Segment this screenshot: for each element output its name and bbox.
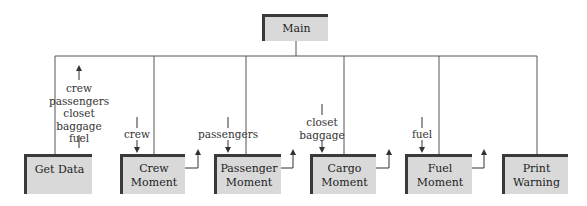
module-main: Main xyxy=(262,14,328,41)
module-label: Print Warning xyxy=(513,162,560,190)
flow-label-fuel-in: fuel xyxy=(407,128,437,141)
module-label: Crew Moment xyxy=(131,162,177,190)
module-print-warning: Print Warning xyxy=(502,154,568,194)
structure-chart: Main Get Data Crew Moment Passenger Mome… xyxy=(0,0,587,206)
module-fuel-moment: Fuel Moment xyxy=(405,154,472,194)
module-label: Get Data xyxy=(35,163,85,177)
flow-label-get-data-out: crew passengers closet baggage fuel xyxy=(49,82,109,145)
module-cargo-moment: Cargo Moment xyxy=(310,154,376,194)
module-label: Cargo Moment xyxy=(321,162,367,190)
module-label: Fuel Moment xyxy=(417,162,463,190)
module-crew-moment: Crew Moment xyxy=(120,154,185,194)
module-label: Main xyxy=(282,22,310,36)
flow-label-crew-in: crew xyxy=(117,128,157,141)
module-passenger-moment: Passenger Moment xyxy=(214,154,281,194)
flow-label-cargo-in: closet baggage xyxy=(297,116,347,141)
module-label: Passenger Moment xyxy=(220,162,277,190)
flow-label-passenger-in: passengers xyxy=(198,128,258,141)
module-get-data: Get Data xyxy=(24,154,92,194)
